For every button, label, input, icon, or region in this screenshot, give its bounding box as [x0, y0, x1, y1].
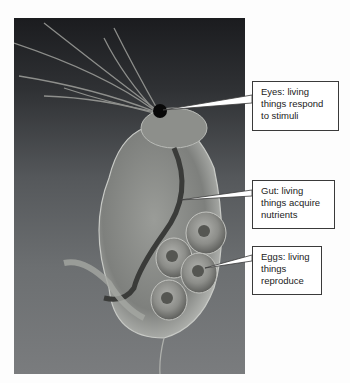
callout-line: to stimuli [261, 110, 332, 122]
eye [153, 104, 167, 118]
callout-eyes: Eyes: living things respond to stimuli [252, 81, 339, 131]
callout-line: Eggs: living [261, 251, 315, 263]
callout-line: Gut: living [261, 185, 328, 197]
antennae [14, 23, 160, 114]
daphnia-illustration [14, 18, 245, 374]
callout-line: things respond [261, 98, 332, 110]
callout-line: nutrients [261, 209, 328, 221]
callout-gut: Gut: living things acquire nutrients [252, 180, 335, 229]
callout-line: reproduce [261, 275, 315, 287]
callout-eggs: Eggs: living things reproduce [252, 246, 322, 295]
callout-line: things [261, 263, 315, 275]
callout-line: Eyes: living [261, 86, 332, 98]
head [141, 108, 207, 148]
callout-line: things acquire [261, 197, 328, 209]
daphnia-photo [14, 18, 245, 374]
